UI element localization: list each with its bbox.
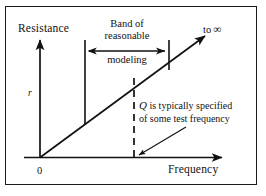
q-note-line-2-text: of some test frequency <box>139 113 261 126</box>
figure-container: Resistance Frequency r 0 to∞ Band of rea… <box>0 0 266 196</box>
infinity-icon: ∞ <box>211 23 221 35</box>
q-note-first-line: Q is typically specified <box>139 98 261 113</box>
band-caption-line-1: Band of <box>87 18 167 29</box>
x-axis-label: Frequency <box>168 163 218 175</box>
band-caption-line-2: reasonable <box>87 30 167 41</box>
to-infinity-label: to∞ <box>203 23 221 35</box>
q-note-line-1-text: is typically specified <box>147 100 232 111</box>
y-value-label-r: r <box>28 89 32 99</box>
q-symbol: Q <box>139 99 147 111</box>
to-infinity-text: to <box>203 24 211 35</box>
band-caption-line-3: modeling <box>87 54 167 65</box>
y-axis-label: Resistance <box>18 22 69 34</box>
band-caption-top: Band of reasonable <box>87 18 167 41</box>
q-note-pointer-arrow <box>139 127 186 155</box>
origin-label: 0 <box>37 165 42 176</box>
q-note-annotation: Q is typically specified of some test fr… <box>139 98 261 126</box>
